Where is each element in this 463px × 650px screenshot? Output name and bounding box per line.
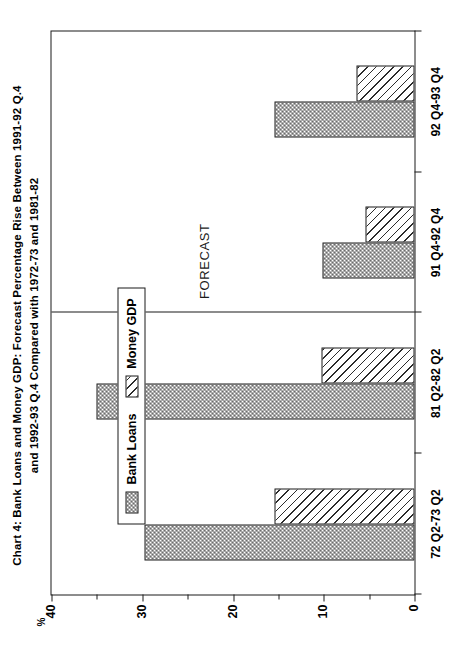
value-axis-tick bbox=[187, 594, 188, 599]
forecast-label: FORECAST bbox=[196, 223, 211, 299]
bar-money-gdp bbox=[321, 347, 414, 383]
chart-legend: Bank Loans Money GDP bbox=[117, 287, 145, 524]
category-axis-tick bbox=[414, 171, 421, 172]
bar-bank-loans bbox=[322, 242, 414, 278]
value-axis-tick bbox=[51, 594, 52, 601]
chart-title-line-2: and 1992-93 Q.4 Compared with 1972-73 an… bbox=[25, 0, 42, 650]
legend-swatch-money-gdp bbox=[125, 375, 138, 397]
value-axis-tick bbox=[96, 594, 97, 599]
rotated-figure-stage: Chart 4: Bank Loans and Money GDP: Forec… bbox=[0, 0, 463, 650]
value-axis-tick bbox=[414, 594, 415, 601]
value-axis-label: 40 bbox=[45, 604, 58, 618]
chart-page: Chart 4: Bank Loans and Money GDP: Forec… bbox=[0, 0, 463, 650]
value-axis-tick bbox=[278, 594, 279, 599]
chart-title: Chart 4: Bank Loans and Money GDP: Forec… bbox=[8, 0, 42, 650]
category-axis-tick bbox=[414, 452, 421, 453]
category-axis-tick bbox=[414, 593, 421, 594]
bar-money-gdp bbox=[356, 65, 414, 101]
category-axis-label: 91 Q4-92 Q4 bbox=[428, 207, 442, 276]
category-axis-label: 81 Q2-82 Q2 bbox=[428, 348, 442, 417]
plot-area: 010203040 % 72 Q2-73 Q281 Q2-82 Q291 Q4-… bbox=[50, 30, 415, 595]
legend-label-bank-loans: Bank Loans bbox=[124, 413, 138, 484]
value-axis-tick bbox=[323, 594, 324, 601]
category-axis-label: 92 Q4-93 Q4 bbox=[428, 67, 442, 136]
value-axis-label: 30 bbox=[136, 604, 149, 618]
value-axis-label: 10 bbox=[317, 604, 330, 618]
bar-bank-loans bbox=[274, 101, 414, 137]
bar-bank-loans bbox=[144, 524, 414, 560]
value-axis-tick bbox=[142, 594, 143, 601]
chart-title-line-1: Chart 4: Bank Loans and Money GDP: Forec… bbox=[8, 0, 25, 650]
value-axis-tick bbox=[369, 594, 370, 599]
legend-label-money-gdp: Money GDP bbox=[124, 298, 138, 368]
category-axis-tick bbox=[414, 312, 421, 313]
category-axis-label: 72 Q2-73 Q2 bbox=[428, 489, 442, 558]
category-axis-tick bbox=[414, 30, 421, 31]
value-axis-tick bbox=[233, 594, 234, 601]
percent-axis-unit: % bbox=[35, 617, 46, 626]
value-axis-label: 20 bbox=[226, 604, 239, 618]
legend-item-money-gdp: Money GDP bbox=[124, 298, 138, 397]
bar-money-gdp bbox=[274, 488, 414, 524]
legend-item-bank-loans: Bank Loans bbox=[124, 413, 138, 513]
legend-swatch-bank-loans bbox=[125, 491, 138, 513]
forecast-divider-line bbox=[51, 312, 414, 313]
bar-money-gdp bbox=[365, 206, 414, 242]
value-axis-label: 0 bbox=[408, 604, 421, 611]
